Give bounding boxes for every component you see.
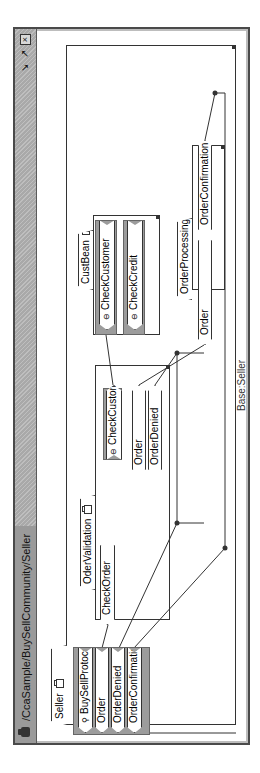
package-icon xyxy=(56,679,64,688)
port-checkcustomer-out[interactable]: ⊖CheckCustomer xyxy=(106,385,122,460)
protocol-icon: ⊖ xyxy=(102,313,111,320)
port-orderconfirmation[interactable]: OrderConfirmation xyxy=(127,647,142,733)
port-custbean-checkcredit[interactable]: ⊖CheckCredit xyxy=(127,220,143,330)
port-buysellprotocol[interactable]: ⚲BuySellProtocol xyxy=(78,647,93,733)
port-checkorder[interactable]: CheckOrder xyxy=(100,545,115,625)
protocol-icon: ⊖ xyxy=(109,448,118,455)
port-orderdenied[interactable]: OrderDenied xyxy=(111,647,125,733)
custbean-tab[interactable]: CustBean xyxy=(78,230,93,290)
package-icon xyxy=(84,505,92,514)
orderprocessing-tab[interactable]: OrderProcessing xyxy=(177,218,192,300)
port-orderdenied-out[interactable]: OrderDenied xyxy=(148,385,162,470)
diagram-canvas[interactable]: Seller Base:Seller ⚲BuySellProtocol Orde… xyxy=(0,0,260,773)
protocol-icon: ⚲ xyxy=(81,717,90,723)
seller-tab[interactable]: Seller xyxy=(51,645,67,725)
port-custbean-checkcustomer[interactable]: ⊖CheckCustomer xyxy=(99,220,115,330)
rotated-stage: /CcaSample/BuySellCommunity/Seller ↘ ↗ × xyxy=(0,0,260,773)
port-order[interactable]: Order xyxy=(95,647,109,733)
base-label: Base:Seller xyxy=(236,360,247,411)
port-order-out[interactable]: Order xyxy=(132,385,146,470)
port-orderprocessing-order[interactable]: Order xyxy=(198,240,212,345)
ordervalidation-tab[interactable]: OderValidation xyxy=(80,495,95,590)
protocol-icon: ⊖ xyxy=(130,313,139,320)
port-orderprocessing-orderconfirmation[interactable]: OrderConfirmation xyxy=(198,140,212,230)
